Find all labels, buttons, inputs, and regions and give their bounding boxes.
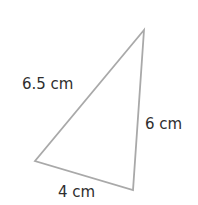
label-side-6-5cm: 6.5 cm (22, 77, 73, 92)
label-side-6cm: 6 cm (145, 117, 182, 132)
label-side-4cm: 4 cm (58, 185, 95, 200)
triangle-diagram: 6.5 cm 6 cm 4 cm (0, 0, 198, 205)
triangle-outline (35, 30, 144, 190)
triangle-shape (0, 0, 198, 205)
